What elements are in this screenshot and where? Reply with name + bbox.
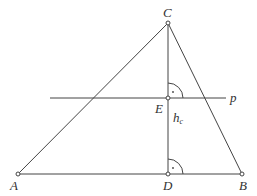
point-d xyxy=(166,172,170,176)
label-hc: hc xyxy=(173,110,184,126)
triangle-diagram: A B C D E p hc xyxy=(0,0,257,196)
point-e xyxy=(166,96,170,100)
label-c: C xyxy=(163,5,172,20)
right-angle-marker-e xyxy=(168,83,183,98)
diagram-canvas: A B C D E p hc xyxy=(0,0,257,196)
label-d: D xyxy=(162,178,173,193)
label-b: B xyxy=(239,178,247,193)
point-a xyxy=(16,172,20,176)
right-angle-dot-d xyxy=(172,167,174,169)
label-e: E xyxy=(154,101,163,116)
label-a: A xyxy=(9,178,18,193)
right-angle-dot-e xyxy=(172,91,174,93)
right-angle-marker-d xyxy=(168,159,183,174)
point-b xyxy=(240,172,244,176)
point-c xyxy=(166,21,170,25)
label-p: p xyxy=(229,90,237,105)
